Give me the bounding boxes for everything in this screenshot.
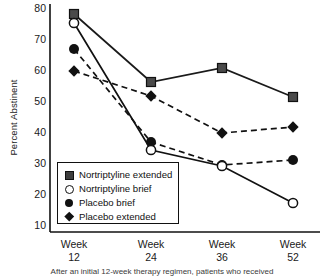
legend-item-label: Nortriptyline extended <box>79 169 172 180</box>
filled-diamond-icon <box>63 210 76 223</box>
x-tick-label: 52 <box>263 251 323 263</box>
x-tick-label: Week <box>192 238 252 250</box>
figure-caption: After an initial 12-week therapy regimen… <box>0 267 324 276</box>
x-tick-label: Week <box>44 238 104 250</box>
x-tick-label: Week <box>263 238 323 250</box>
x-tick-label: Week <box>121 238 181 250</box>
filled-circle-icon <box>63 196 76 209</box>
x-tick-label: 12 <box>44 251 104 263</box>
legend-item-placebo-brief: Placebo brief <box>63 195 178 209</box>
chart-legend: Nortriptyline extended Nortriptyline bri… <box>57 162 179 224</box>
legend-item-label: Placebo extended <box>79 211 156 222</box>
legend-item-label: Placebo brief <box>79 197 135 208</box>
open-circle-icon <box>63 182 76 195</box>
chart-figure: Percent Abstinent 80 70 60 50 40 30 20 1… <box>0 0 324 276</box>
x-tick-label: 36 <box>192 251 252 263</box>
x-tick-label: 24 <box>121 251 181 263</box>
legend-item-placebo-extended: Placebo extended <box>63 209 178 223</box>
legend-item-nortriptyline-extended: Nortriptyline extended <box>63 167 178 181</box>
legend-item-label: Nortriptyline brief <box>79 183 152 194</box>
x-axis-ticks: Week 12 Week 24 Week 36 Week 52 <box>0 0 324 276</box>
legend-item-nortriptyline-brief: Nortriptyline brief <box>63 181 178 195</box>
filled-square-icon <box>63 168 76 181</box>
